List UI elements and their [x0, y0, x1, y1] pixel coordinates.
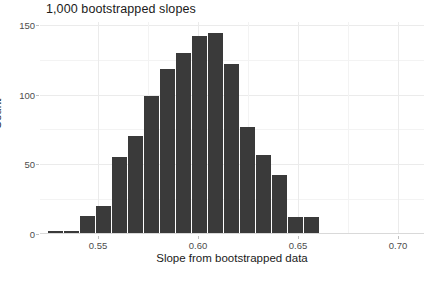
x-tick-mark: [98, 236, 99, 239]
x-axis-line: [40, 233, 424, 234]
x-tick-label: 0.65: [289, 240, 308, 251]
histogram-bar: [112, 157, 127, 234]
histogram-bar: [224, 64, 239, 234]
x-tick-label: 0.70: [389, 240, 408, 251]
plot-panel: [40, 22, 424, 234]
histogram-bar: [80, 216, 95, 234]
y-axis-label-wrap: Count: [0, 0, 40, 282]
histogram-bar: [256, 155, 271, 235]
x-axis-label: Slope from bootstrapped data: [40, 252, 424, 264]
histogram-chart: 1,000 bootstrapped slopes 050100150 0.55…: [0, 0, 435, 282]
y-axis-label: Count: [0, 99, 3, 130]
histogram-bar: [176, 53, 191, 234]
histogram-bar: [208, 33, 223, 234]
histogram-bar: [144, 96, 159, 234]
x-axis-tick-labels: 0.550.600.650.70: [40, 236, 424, 252]
x-tick-mark: [298, 236, 299, 239]
x-tick-mark: [198, 236, 199, 239]
histogram-bars: [40, 22, 424, 234]
histogram-bar: [96, 206, 111, 234]
histogram-bar: [160, 69, 175, 234]
histogram-bar: [128, 136, 143, 234]
x-tick-mark: [398, 236, 399, 239]
histogram-bar: [240, 127, 255, 234]
histogram-bar: [272, 175, 287, 234]
histogram-bar: [288, 217, 303, 234]
histogram-bar: [192, 36, 207, 234]
x-tick-label: 0.60: [189, 240, 208, 251]
x-tick-label: 0.55: [89, 240, 108, 251]
chart-title: 1,000 bootstrapped slopes: [46, 2, 196, 16]
histogram-bar: [304, 217, 319, 234]
